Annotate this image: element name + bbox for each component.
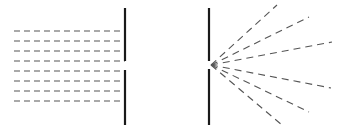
diffracted-ray <box>211 65 282 125</box>
diffracted-ray <box>211 5 277 65</box>
slit-diffraction-diagram <box>0 0 342 135</box>
diffraction-panel <box>209 5 332 125</box>
diffracted-ray <box>211 17 309 65</box>
diffracted-ray <box>211 65 331 88</box>
diffracted-ray <box>211 65 309 112</box>
plane-wave-panel <box>14 8 125 125</box>
diffracted-ray <box>211 42 332 65</box>
